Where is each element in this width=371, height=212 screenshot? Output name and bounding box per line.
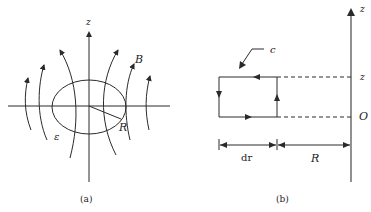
- z-axis-label-b: z: [360, 5, 365, 14]
- z-axis-arrowhead: [347, 8, 355, 16]
- dim-r-arrow-left: [278, 142, 285, 148]
- dim-dr-arrow-right: [269, 142, 276, 148]
- figure: z B R ε (a): [0, 0, 371, 212]
- contour-arrow-bottom: [245, 114, 252, 120]
- contour-arrow-top: [253, 74, 260, 80]
- contour-label-c: c: [270, 45, 276, 55]
- contour-pointer-arrowhead: [239, 61, 246, 69]
- dim-dr-arrow-left: [220, 142, 227, 148]
- caption-b: (b): [276, 195, 289, 204]
- origin-label: O: [359, 111, 368, 122]
- z-level-label: z: [360, 73, 365, 82]
- contour-pointer: [242, 49, 264, 64]
- dr-label: dr: [241, 153, 252, 163]
- contour-arrow-left: [216, 91, 222, 98]
- dim-r-arrow-right: [343, 142, 350, 148]
- contour-arrow-right: [274, 94, 280, 101]
- distance-label-r: R: [311, 153, 319, 164]
- panel-b-drawing: [0, 0, 371, 212]
